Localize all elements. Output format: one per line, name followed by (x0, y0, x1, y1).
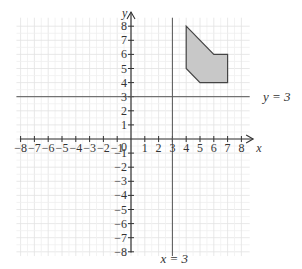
grid (16, 18, 249, 256)
y-tick-label: −3 (114, 174, 127, 188)
label-y-equals-3: y = 3 (261, 89, 291, 104)
y-tick-label: −8 (114, 245, 127, 259)
y-tick-label: 3 (121, 90, 127, 104)
coordinate-plane: −8−7−6−5−4−3−2−11234567887654321−1−2−3−4… (0, 0, 302, 269)
label-x-equals-3: x = 3 (159, 251, 188, 266)
y-tick-label: −7 (114, 231, 127, 245)
x-tick-label: −2 (97, 141, 110, 155)
x-tick-label: −4 (69, 141, 82, 155)
y-tick-label: −2 (114, 160, 127, 174)
x-tick-label: 1 (142, 141, 148, 155)
x-tick-label: 6 (211, 141, 217, 155)
x-tick-label: 4 (183, 141, 189, 155)
x-tick-label: 7 (225, 141, 231, 155)
y-tick-label: −6 (114, 217, 127, 231)
x-tick-label: 8 (238, 141, 244, 155)
x-tick-label: 2 (156, 141, 162, 155)
y-axis-label: y (121, 6, 128, 20)
y-tick-label: 4 (121, 76, 127, 90)
x-axis-label: x (255, 141, 262, 155)
x-tick-label: −5 (56, 141, 69, 155)
x-tick-label: 3 (169, 141, 175, 155)
reference-lines (16, 18, 249, 256)
y-tick-label: 5 (121, 62, 127, 76)
x-tick-label: −8 (14, 141, 27, 155)
y-tick-label: 1 (121, 118, 127, 132)
x-tick-label: −6 (42, 141, 55, 155)
tick-labels: −8−7−6−5−4−3−2−11234567887654321−1−2−3−4… (14, 6, 291, 266)
y-tick-label: −5 (114, 203, 127, 217)
y-tick-label: −4 (114, 188, 127, 202)
y-tick-label: 7 (121, 33, 127, 47)
y-tick-label: 6 (121, 47, 127, 61)
y-tick-label: 2 (121, 104, 127, 118)
x-tick-label: −3 (83, 141, 96, 155)
y-tick-label: 8 (121, 19, 127, 33)
origin-label: 0 (121, 140, 127, 154)
x-tick-label: −7 (28, 141, 41, 155)
x-tick-label: 5 (197, 141, 203, 155)
